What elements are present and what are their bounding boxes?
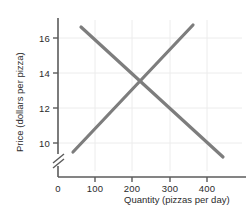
x-tick-label-400: 400 bbox=[193, 183, 221, 194]
x-tick-label-200: 200 bbox=[118, 183, 146, 194]
x-tick-label-100: 100 bbox=[81, 183, 109, 194]
y-axis-title: Price (dollars per pizza) bbox=[14, 52, 25, 152]
x-tick-label-300: 300 bbox=[156, 183, 184, 194]
y-tick-label-10: 10 bbox=[28, 138, 50, 149]
y-tick-label-16: 16 bbox=[28, 33, 50, 44]
y-tick-label-14: 14 bbox=[28, 68, 50, 79]
y-tick-label-12: 12 bbox=[28, 103, 50, 114]
axis-break-icon bbox=[53, 154, 64, 168]
supply-curve bbox=[73, 25, 193, 152]
x-tick-label-0: 0 bbox=[48, 183, 68, 194]
x-axis-title: Quantity (pizzas per day) bbox=[124, 194, 230, 205]
supply-demand-chart: 16 14 12 10 0 100 200 300 400 Price (dol… bbox=[0, 0, 250, 218]
demand-curve bbox=[81, 27, 223, 157]
